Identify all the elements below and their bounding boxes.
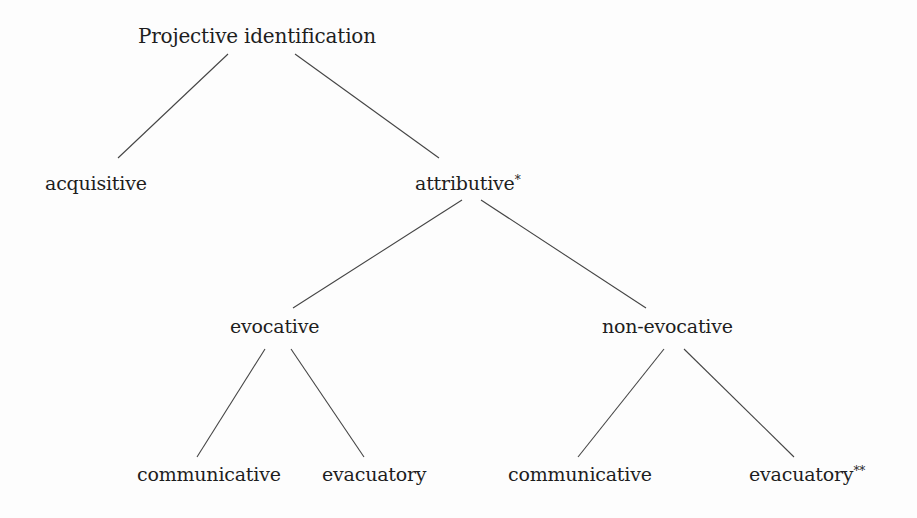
node-label: communicative: [508, 463, 652, 485]
node-label: evocative: [230, 315, 319, 337]
node-label: communicative: [137, 463, 281, 485]
footnote-mark: **: [853, 464, 865, 478]
node-evocative-communicative: communicative: [137, 465, 281, 484]
edge-non-evocative-to-evacuatory: [684, 349, 794, 457]
edge-evocative-to-communicative: [197, 349, 265, 457]
edge-attributive-to-non-evocative: [481, 200, 646, 308]
node-evocative-evacuatory: evacuatory: [322, 465, 426, 484]
node-label: evacuatory: [322, 463, 426, 485]
projective-identification-tree-diagram: Projective identification acquisitive at…: [0, 0, 917, 518]
node-evocative: evocative: [230, 317, 319, 336]
node-label: attributive: [415, 172, 515, 194]
edge-non-evocative-to-communicative: [578, 349, 664, 457]
edge-evocative-to-evacuatory: [291, 349, 364, 457]
edge-root-to-attributive: [295, 54, 439, 158]
node-acquisitive: acquisitive: [45, 174, 147, 193]
node-non-evocative: non-evocative: [602, 317, 733, 336]
node-label: Projective identification: [138, 24, 376, 48]
node-non-evocative-communicative: communicative: [508, 465, 652, 484]
node-attributive: attributive*: [415, 174, 520, 193]
node-non-evocative-evacuatory: evacuatory**: [749, 465, 865, 484]
node-projective-identification: Projective identification: [138, 26, 376, 46]
node-label: evacuatory: [749, 463, 853, 485]
edge-root-to-acquisitive: [118, 54, 228, 158]
footnote-mark: *: [515, 173, 521, 187]
node-label: acquisitive: [45, 172, 147, 194]
node-label: non-evocative: [602, 315, 733, 337]
edge-attributive-to-evocative: [293, 200, 462, 308]
tree-edges: [0, 0, 917, 518]
